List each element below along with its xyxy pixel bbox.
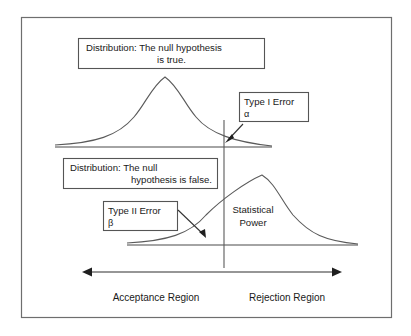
power-label-line1: Statistical (232, 204, 273, 215)
callout-null-true-line2: is true. (157, 54, 186, 65)
rejection-region-label: Rejection Region (249, 292, 325, 303)
error-diagram-root: Distribution: The null hypothesis is tru… (0, 0, 411, 336)
acceptance-region-label: Acceptance Region (113, 292, 200, 303)
callout-null-false-line2: hypothesis is false. (131, 174, 212, 185)
power-label-line2: Power (239, 217, 267, 228)
callout-type1-symbol: α (244, 109, 250, 119)
callout-type2-symbol: β (108, 218, 113, 228)
callout-null-false-line1: Distribution: The null (70, 162, 157, 173)
callout-type2-label: Type II Error (108, 205, 162, 216)
hypothesis-test-diagram: Distribution: The null hypothesis is tru… (0, 0, 411, 336)
callout-null-true-line1: Distribution: The null hypothesis (86, 42, 222, 53)
callout-type1-label: Type I Error (244, 96, 295, 107)
